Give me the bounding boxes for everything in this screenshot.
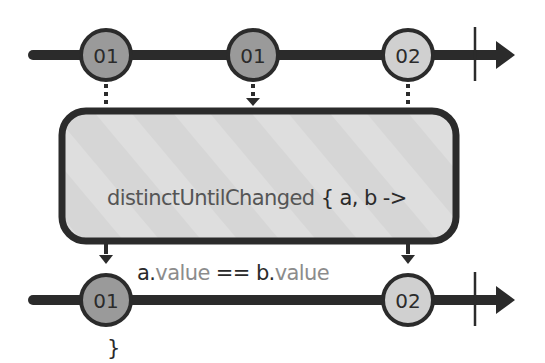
operator-name: distinctUntilChanged — [107, 186, 315, 210]
svg-text:01: 01 — [93, 44, 118, 68]
arrow-head-icon — [496, 41, 515, 69]
input-connectors — [106, 84, 408, 110]
svg-text:01: 01 — [240, 44, 265, 68]
input-marble-2: 01 — [228, 30, 278, 80]
code-line-2: a.value == b.value — [107, 261, 407, 286]
operator-code: distinctUntilChanged { a, b -> a.value =… — [107, 136, 407, 363]
arrow-head-icon — [496, 286, 515, 314]
arrow-down-icon — [246, 98, 260, 106]
input-marble-3: 02 — [383, 30, 433, 80]
input-marble-1: 01 — [81, 30, 131, 80]
code-line-3: } — [107, 336, 407, 361]
code-line-1: distinctUntilChanged { a, b -> — [107, 186, 407, 211]
svg-text:02: 02 — [395, 44, 420, 68]
